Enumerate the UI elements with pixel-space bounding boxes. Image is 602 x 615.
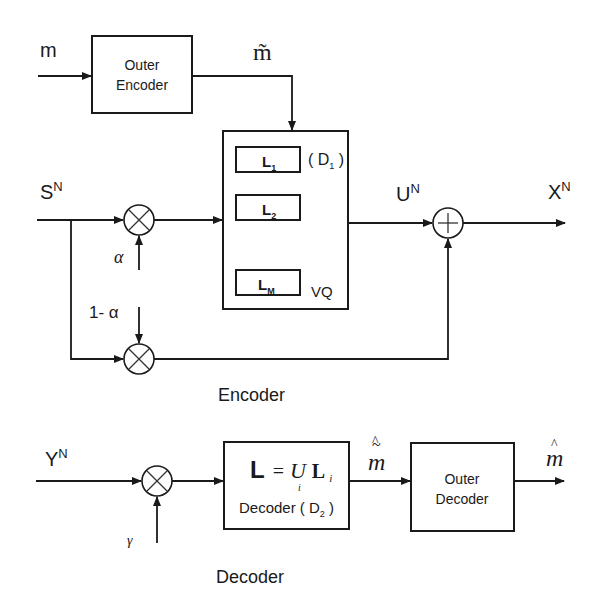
outer-decoder-block: Outer Decoder <box>411 443 514 531</box>
vq-block: L1 ( D1 ) L2 LM VQ <box>223 131 348 309</box>
codeword-label: UN <box>396 181 420 205</box>
outer-decoder-label-1: Outer <box>444 471 479 487</box>
encoder-section-label: Encoder <box>218 385 285 405</box>
multiplier-one-minus-alpha <box>124 344 154 374</box>
source-label: SN <box>40 179 63 203</box>
outer-encoder-block: Outer Encoder <box>92 36 192 113</box>
arrow-s-to-mult2 <box>71 220 123 359</box>
union-formula: L = U L i <box>250 456 332 484</box>
arrow-outer-encoder-to-vq <box>192 76 292 130</box>
multiplier-alpha <box>124 205 154 235</box>
adder <box>433 208 463 238</box>
decoder-section-label: Decoder <box>216 567 284 587</box>
outer-decoder-label-2: Decoder <box>436 491 489 507</box>
output-label: XN <box>548 179 571 203</box>
decoder-section: YN γ L = U L i i Decoder ( D2 ) m ~ ^ <box>36 434 564 587</box>
alpha-label: α <box>114 247 124 267</box>
decoded-message-hat: ^ <box>551 437 558 452</box>
outer-encoder-label-2: Encoder <box>116 77 168 93</box>
vq-label: VQ <box>311 283 333 300</box>
input-message-label: m <box>40 39 57 61</box>
encoded-message-label: m̃ <box>253 39 272 65</box>
outer-encoder-label-1: Outer <box>124 57 159 73</box>
multiplier-gamma <box>142 466 172 496</box>
gamma-label: γ <box>127 533 133 548</box>
block-diagram: m Outer Encoder m̃ SN α 1- α <box>0 0 602 615</box>
decoded-inner-hat: ^ <box>372 434 379 449</box>
one-minus-alpha-label: 1- α <box>89 303 119 322</box>
union-index: i <box>298 482 301 493</box>
inner-decoder-block: L = U L i i Decoder ( D2 ) <box>224 442 349 529</box>
received-label: YN <box>45 446 68 470</box>
encoder-section: m Outer Encoder m̃ SN α 1- α <box>37 36 571 405</box>
